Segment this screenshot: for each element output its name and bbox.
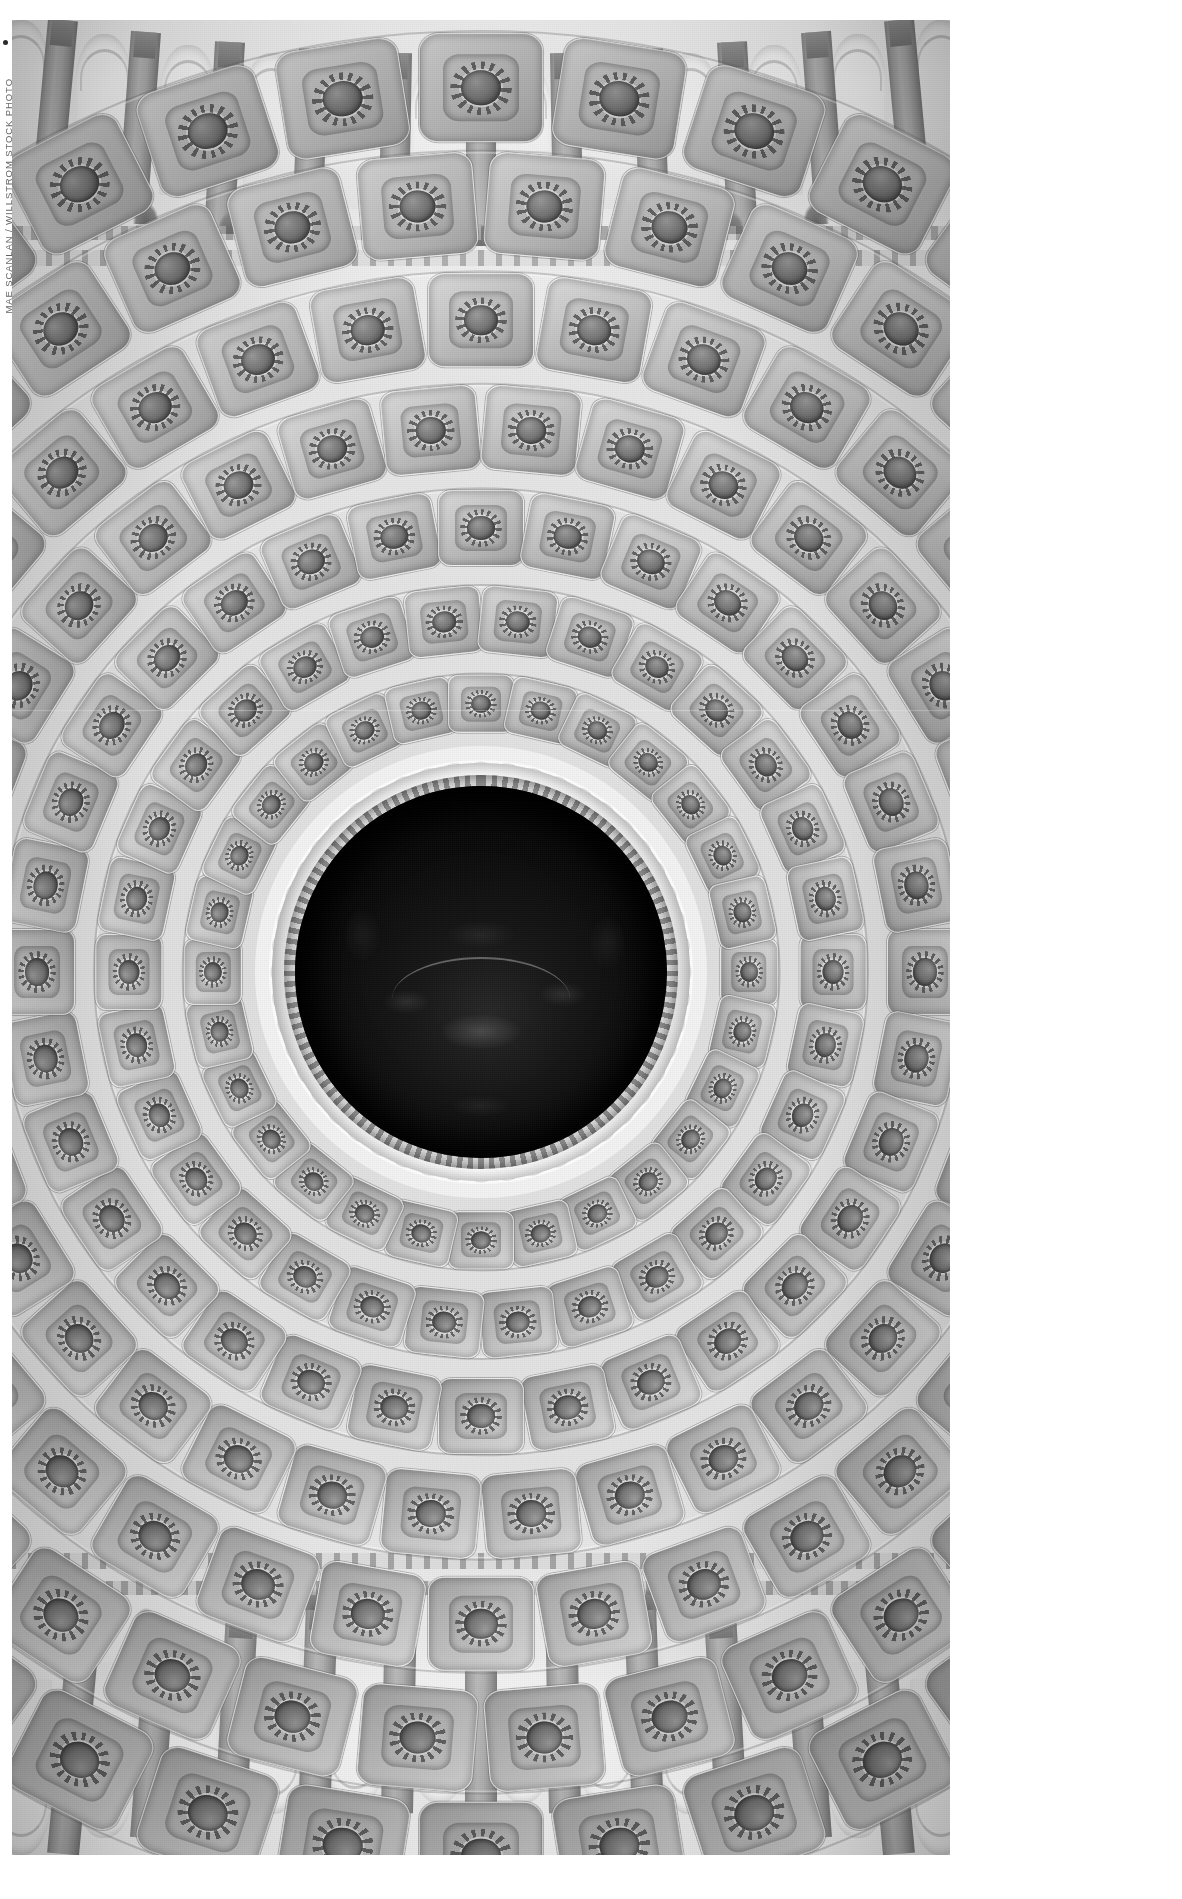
coffer-rosette-icon: [54, 160, 105, 209]
coffer-recess: [31, 138, 129, 232]
coffer-rosette-icon: [730, 109, 778, 154]
coffer-rosette-icon: [597, 79, 641, 119]
coffer-recess: [31, 1713, 129, 1807]
coffer-rosette-icon: [321, 1825, 365, 1855]
capitol-dome-photograph: [12, 20, 950, 1855]
photo-page: MAE SCANLAN / WILLSTROM STOCK PHOTO: [0, 0, 1182, 1899]
coffer-cell: [419, 1801, 543, 1855]
coffer-rosette-icon: [461, 1839, 500, 1855]
oculus-fresco: [295, 786, 667, 1158]
coffer-rosette-icon: [184, 109, 232, 154]
coffer-cell: [273, 35, 413, 162]
coffer-recess: [708, 1769, 800, 1855]
film-seam-line: [12, 710, 950, 711]
coffer-recess: [443, 55, 519, 122]
coffer-rosette-icon: [857, 160, 908, 209]
coffer-recess: [577, 60, 662, 138]
coffer-recess: [834, 1713, 932, 1807]
coffer-recess: [300, 1806, 385, 1855]
coffer-recess: [577, 1806, 662, 1855]
coffer-rosette-icon: [597, 1825, 641, 1855]
coffer-recess: [300, 60, 385, 138]
coffer-recess: [708, 88, 800, 175]
coffer-recess: [162, 88, 254, 175]
coffer-recess: [834, 138, 932, 232]
coffer-rosette-icon: [54, 1735, 105, 1784]
coffer-cell: [419, 33, 543, 142]
coffer-rosette-icon: [857, 1735, 908, 1784]
coffer-rosette-icon: [321, 79, 365, 119]
coffer-cell: [549, 35, 689, 162]
coffer-rosette-icon: [461, 71, 500, 106]
coffer-recess: [443, 1823, 519, 1855]
coffer-rosette-icon: [730, 1790, 778, 1835]
coffer-rosette-icon: [184, 1790, 232, 1835]
coffer-recess: [162, 1769, 254, 1855]
